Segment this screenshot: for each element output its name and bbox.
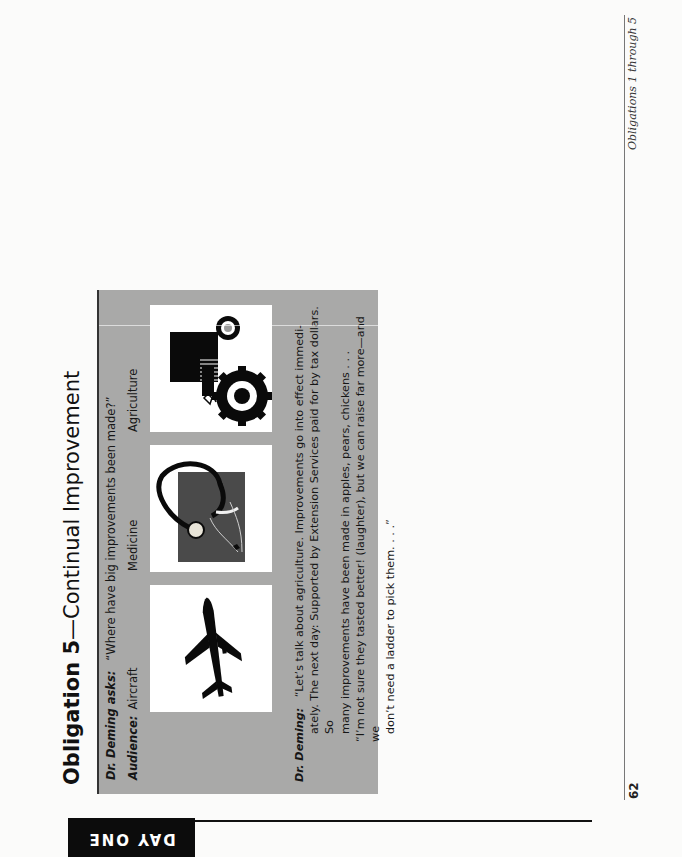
aircraft-panel: [150, 585, 272, 712]
medicine-panel: [150, 445, 272, 572]
running-head: Obligations 1 through 5: [626, 17, 639, 150]
response-paragraph: Dr. Deming: “Let’s talk about agricultur…: [292, 302, 307, 782]
dialogue-box: Dr. Deming asks:“Where have big improvem…: [97, 290, 378, 794]
footer-rule: [624, 15, 625, 800]
answer-medicine: Medicine: [126, 520, 140, 571]
rotated-page: Obligation 5—Continual Improvement Dr. D…: [0, 0, 682, 857]
response-line: “I’m not sure they tasted better! (laugh…: [353, 302, 383, 782]
scan-artifact: [99, 325, 378, 326]
response-line: many improvements have been made in appl…: [338, 302, 353, 782]
obligation-number: Obligation 5: [60, 640, 84, 785]
deming-asks-line: Dr. Deming asks:“Where have big improvem…: [104, 397, 118, 780]
answer-aircraft: Aircraft: [126, 668, 140, 710]
deming-response: Dr. Deming: “Let’s talk about agricultur…: [292, 302, 398, 782]
response-label: Dr. Deming:: [293, 708, 306, 782]
answer-agriculture: Agriculture: [126, 369, 140, 432]
title-dash: —: [60, 619, 84, 640]
asks-question: “Where have big improvements been made?”: [104, 397, 118, 661]
airplane-icon: [150, 585, 272, 712]
page-title: Obligation 5—Continual Improvement: [60, 371, 84, 785]
asks-label: Dr. Deming asks:: [104, 671, 118, 780]
response-line: don’t need a ladder to pick them. . . .”: [383, 302, 398, 782]
response-line: “Let’s talk about agriculture. Improveme…: [293, 325, 306, 698]
obligation-name: Continual Improvement: [60, 371, 84, 619]
page-number: 62: [627, 782, 641, 799]
section-tab-label: DAY ONE: [68, 818, 195, 857]
section-tab: DAY ONE: [68, 818, 195, 857]
audience-line: Audience:Aircraft: [126, 668, 140, 780]
audience-label: Audience:: [126, 716, 140, 780]
stethoscope-icon: [150, 445, 272, 572]
response-line: ately. The next day: Supported by Extens…: [307, 302, 337, 782]
